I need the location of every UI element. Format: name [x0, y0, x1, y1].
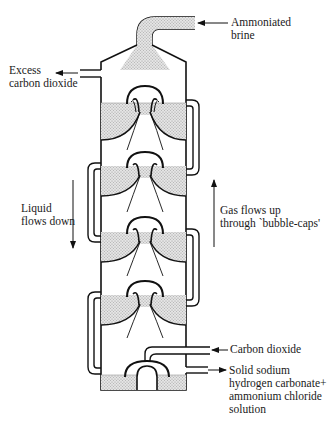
excess-co2-outlet	[80, 70, 101, 77]
downcomer-left-4	[88, 292, 101, 374]
tray-3	[101, 232, 186, 262]
label-carbon-dioxide: Carbon dioxide	[230, 343, 301, 356]
downcomer-right-3	[186, 229, 199, 306]
label-excess-co2: Excess carbon dioxide	[9, 64, 78, 90]
label-liquid-flows-down: Liquid flows down	[21, 202, 75, 228]
label-product-output: Solid sodium hydrogen carbonate+ ammoniu…	[229, 364, 327, 416]
brine-inlet-pipe	[137, 17, 195, 45]
downcomer-right-1	[186, 100, 199, 175]
label-gas-flows-up: Gas flows up through `bubble-caps'	[220, 204, 320, 230]
tray-1	[101, 103, 186, 140]
tray-4	[101, 295, 186, 325]
label-ammoniated-brine: Ammoniated brine	[231, 16, 291, 42]
co2-inlet-pipe	[145, 347, 210, 362]
downcomer-left-2	[88, 163, 101, 242]
product-outlet-pipe	[186, 367, 208, 373]
tray-2	[101, 166, 186, 196]
